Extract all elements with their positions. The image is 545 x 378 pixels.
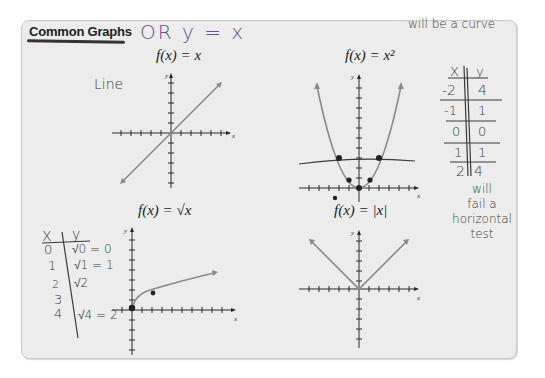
svg-text:y: y bbox=[350, 229, 355, 237]
svg-text:y: y bbox=[164, 72, 169, 80]
svg-text:y: y bbox=[350, 73, 355, 81]
graph-title-identity: f(x) = x bbox=[156, 47, 201, 64]
svg-text:x: x bbox=[416, 294, 421, 302]
graph-identity: y x bbox=[110, 70, 240, 190]
svg-text:x: x bbox=[233, 315, 238, 323]
graph-title-abs: f(x) = |x| bbox=[334, 202, 387, 219]
annotation-will-be-a-curve: will be a curve bbox=[408, 18, 518, 31]
graph-square: y x bbox=[297, 72, 427, 202]
annotation-horizontal-test: will fail a horizontal test bbox=[432, 182, 532, 242]
annotation-or-y-equals-x: OR y = x bbox=[140, 20, 245, 44]
svg-text:x: x bbox=[231, 132, 236, 140]
graph-abs: y x bbox=[297, 228, 427, 348]
svg-text:x: x bbox=[416, 192, 421, 200]
graph-title-sqrt: f(x) = √x bbox=[138, 202, 191, 219]
panel-heading: Common Graphs bbox=[29, 24, 132, 39]
graph-title-square: f(x) = x² bbox=[345, 47, 395, 64]
